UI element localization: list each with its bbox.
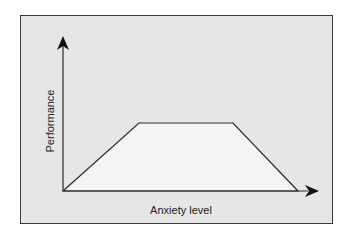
y-axis-label: Performance xyxy=(44,90,56,153)
performance-curve xyxy=(63,123,298,191)
x-axis-label: Anxiety level xyxy=(150,204,212,216)
